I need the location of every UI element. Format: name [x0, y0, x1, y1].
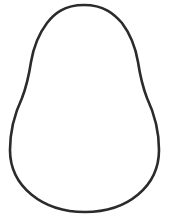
pear-outline-drawing: [0, 0, 171, 222]
